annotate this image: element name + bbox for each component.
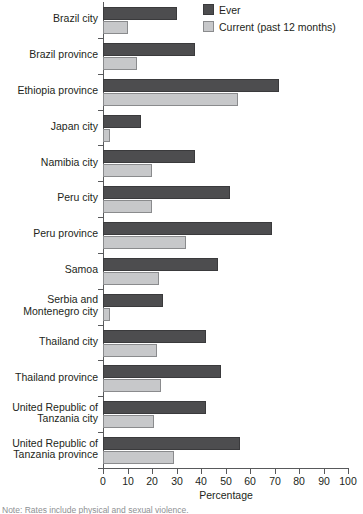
legend-label-ever: Ever (219, 4, 241, 16)
x-axis-tick (324, 469, 325, 474)
x-axis-tick (152, 469, 153, 474)
x-axis-tick (250, 469, 251, 474)
y-axis-tick (98, 74, 104, 75)
bar-current (103, 200, 152, 213)
category-label: Peru city (0, 192, 98, 204)
bar-current (103, 451, 174, 464)
x-axis-tick (103, 469, 104, 474)
category-label: Samoa (0, 264, 98, 276)
y-axis-tick (98, 181, 104, 182)
bar-ever (103, 222, 272, 235)
bar-ever (103, 43, 195, 56)
x-axis-tick (201, 469, 202, 474)
x-axis-title: Percentage (103, 489, 349, 501)
bar-ever (103, 330, 206, 343)
y-axis-tick (98, 396, 104, 397)
y-axis-tick (98, 110, 104, 111)
x-axis-tick (128, 469, 129, 474)
bar-current (103, 164, 152, 177)
bar-ever (103, 437, 240, 450)
legend-item-ever: Ever (203, 2, 336, 17)
x-axis-tick (177, 469, 178, 474)
category-label: Thailand city (0, 336, 98, 348)
x-axis-tick-label: 100 (333, 475, 363, 487)
bar-current (103, 379, 161, 392)
category-label: Brazil province (0, 49, 98, 61)
bar-ever (103, 115, 141, 128)
bar-ever (103, 401, 206, 414)
bar-chart: Brazil cityBrazil provinceEthiopia provi… (0, 0, 363, 514)
legend-swatch-current-icon (203, 21, 214, 32)
x-axis-tick (299, 469, 300, 474)
category-label: Japan city (0, 121, 98, 133)
bar-current (103, 21, 128, 34)
bar-current (103, 93, 238, 106)
category-label: Namibia city (0, 157, 98, 169)
bar-ever (103, 365, 221, 378)
bar-current (103, 129, 110, 142)
category-label: United Republic of Tanzania city (0, 402, 98, 425)
bar-current (103, 57, 137, 70)
category-label: Thailand province (0, 372, 98, 384)
x-axis-tick (226, 469, 227, 474)
y-axis-tick (98, 217, 104, 218)
y-axis-tick (98, 38, 104, 39)
y-axis-tick (98, 360, 104, 361)
y-axis-tick (98, 253, 104, 254)
category-label: United Republic of Tanzania province (0, 438, 98, 461)
category-label: Peru province (0, 228, 98, 240)
category-label: Serbia and Montenegro city (0, 294, 98, 317)
legend-swatch-ever-icon (203, 4, 214, 15)
bar-current (103, 272, 159, 285)
bar-current (103, 344, 157, 357)
bar-ever (103, 150, 195, 163)
legend-item-current: Current (past 12 months) (203, 19, 336, 34)
category-label: Ethiopia province (0, 85, 98, 97)
y-axis-tick (98, 325, 104, 326)
legend: Ever Current (past 12 months) (203, 2, 336, 36)
y-axis-tick (98, 145, 104, 146)
x-axis-tick (348, 469, 349, 474)
footnote: Note: Rates include physical and sexual … (2, 505, 189, 514)
plot-area (103, 2, 348, 468)
bar-current (103, 415, 154, 428)
y-axis-tick (98, 289, 104, 290)
bar-ever (103, 79, 279, 92)
bar-ever (103, 186, 230, 199)
x-axis-tick (275, 469, 276, 474)
bar-ever (103, 258, 218, 271)
bar-ever (103, 294, 163, 307)
category-label: Brazil city (0, 13, 98, 25)
y-axis-tick (98, 432, 104, 433)
bar-ever (103, 7, 177, 20)
bar-current (103, 308, 110, 321)
legend-label-current: Current (past 12 months) (219, 21, 336, 33)
bar-current (103, 236, 186, 249)
